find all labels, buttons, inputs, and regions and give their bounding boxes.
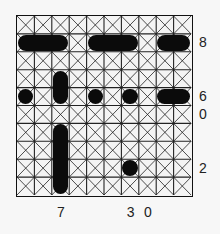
bar-piece — [53, 71, 68, 105]
bar-piece — [88, 35, 138, 51]
column-clue: 7 — [52, 204, 70, 220]
puzzle-grid[interactable] — [16, 15, 193, 197]
row-clue: 6 — [199, 88, 207, 104]
row-clue: 0 — [199, 106, 207, 122]
column-clue: 3 — [122, 204, 140, 220]
row-clue: 8 — [199, 34, 207, 50]
row-clue: 2 — [199, 160, 207, 176]
bar-piece — [157, 35, 190, 51]
dot-piece — [122, 160, 137, 176]
bar-piece — [18, 35, 68, 51]
column-clue: 0 — [139, 204, 157, 220]
bar-piece — [53, 124, 68, 194]
bar-piece — [157, 89, 190, 105]
dot-piece — [122, 89, 137, 105]
